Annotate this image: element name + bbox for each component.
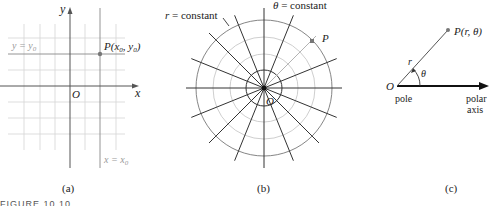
point-label-a: P(x0, y0) bbox=[103, 40, 141, 54]
figure-canvas: y x O P(x0, y0) y = y0 x = x0 r = consta… bbox=[0, 0, 489, 206]
figure-caption: FIGURE 10.10 bbox=[0, 199, 71, 206]
origin-label-b: O bbox=[266, 95, 274, 107]
theta-label-c: θ bbox=[421, 68, 426, 79]
pole-label: pole bbox=[395, 93, 413, 104]
r-constant-label: r = constant bbox=[165, 9, 218, 21]
origin-label-c: O bbox=[386, 80, 394, 92]
r-constant-pointer bbox=[223, 18, 229, 26]
vline-label: x = x0 bbox=[103, 154, 129, 167]
point-p-c bbox=[446, 28, 450, 32]
theta-constant-label: θ = constant bbox=[273, 0, 327, 11]
x-axis-label: x bbox=[134, 86, 141, 100]
y-axis-arrow-icon bbox=[68, 7, 73, 14]
point-label-b: P bbox=[321, 32, 329, 44]
caption-a: (a) bbox=[62, 182, 74, 194]
point-p-polar bbox=[310, 39, 314, 43]
pole-dot bbox=[262, 86, 267, 91]
point-label-c: P(r, θ) bbox=[453, 25, 482, 38]
origin-label-a: O bbox=[72, 88, 80, 100]
cartesian-grid bbox=[0, 7, 139, 168]
polar-axis-label-2: axis bbox=[467, 104, 483, 115]
caption-b: (b) bbox=[257, 182, 270, 194]
y-axis-label: y bbox=[59, 2, 66, 16]
polar-axis-label-1: polar bbox=[466, 93, 487, 104]
point-p-cartesian bbox=[98, 52, 102, 56]
r-label-c: r bbox=[408, 56, 412, 67]
polar-axis-arrow-icon bbox=[479, 82, 489, 90]
caption-c: (c) bbox=[445, 182, 457, 194]
polar-grid bbox=[186, 8, 342, 168]
